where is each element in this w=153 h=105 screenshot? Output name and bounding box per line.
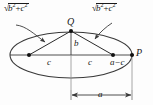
right-focal-distance-label: c: [88, 58, 92, 67]
right-focal-length-label: √b2+c2: [92, 3, 117, 13]
ellipse-focal-distance-figure: √b2+c2 √b2+c2 Q P b c c a−c a: [0, 0, 153, 105]
left-focal-length-label: √b2+c2: [4, 3, 29, 13]
left-focus-point: [27, 53, 31, 57]
left-focal-distance-label: c: [47, 58, 51, 67]
point-label-p: P: [136, 48, 142, 58]
vertex-gap-label: a−c: [110, 58, 125, 67]
left-leader-arrow: [16, 25, 45, 42]
point-label-q: Q: [67, 17, 74, 27]
figure-drawing-canvas: [0, 0, 153, 105]
apex-point-q: [69, 29, 73, 33]
radical-right-exp2: 2: [113, 2, 116, 8]
semi-major-length-label: a: [98, 90, 103, 99]
vertex-point-p: [130, 53, 134, 57]
radical-left-exp2: 2: [25, 2, 28, 8]
semi-minor-length-label: b: [74, 39, 79, 48]
